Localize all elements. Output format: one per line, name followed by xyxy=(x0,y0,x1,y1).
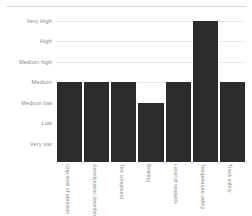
x-axis-tick: Tire compound xyxy=(110,163,137,215)
x-axis-tick-label: Track safety xyxy=(227,164,233,193)
bar[interactable] xyxy=(192,21,219,162)
x-axis-tick: Braking xyxy=(137,163,164,215)
y-axis-tick-label: Very low xyxy=(0,141,52,147)
y-axis-tick-label: Medium low xyxy=(0,100,52,106)
top-divider xyxy=(6,6,246,7)
x-axis-tick-labels: Grip level of abrasionAerodynamic downfo… xyxy=(56,163,246,216)
x-axis-tick-label: Aerodynamic downforce xyxy=(91,164,97,216)
bar[interactable] xyxy=(137,103,164,162)
y-axis-tick-label: Very High xyxy=(0,18,52,24)
x-axis-tick: Temperature safety xyxy=(192,163,219,215)
y-axis-tick-label: Medium xyxy=(0,79,52,85)
y-axis-tick-label: Low xyxy=(0,120,52,126)
x-axis-tick-label: Grip level of abrasion xyxy=(64,164,70,214)
x-axis-tick: Level of sealants xyxy=(165,163,192,215)
bar[interactable] xyxy=(165,82,192,162)
x-axis-tick: Aerodynamic downforce xyxy=(83,163,110,215)
y-axis-tick-label: Medium high xyxy=(0,59,52,65)
bar[interactable] xyxy=(83,82,110,162)
y-axis-tick-label: High xyxy=(0,38,52,44)
bar[interactable] xyxy=(219,82,246,162)
bar-chart: Very HighHighMedium highMediumMedium low… xyxy=(0,0,252,216)
bar[interactable] xyxy=(110,82,137,162)
x-axis-tick-label: Tire compound xyxy=(118,164,124,199)
x-axis-tick: Grip level of abrasion xyxy=(56,163,83,215)
x-axis-tick-label: Braking xyxy=(145,164,151,182)
x-axis-tick-label: Level of sealants xyxy=(173,164,179,204)
y-axis-tick-labels: Very HighHighMedium highMediumMedium low… xyxy=(0,19,54,162)
x-axis-tick-label: Temperature safety xyxy=(200,164,206,209)
x-axis-tick: Track safety xyxy=(219,163,246,215)
bar[interactable] xyxy=(56,82,83,162)
bar-series xyxy=(56,19,246,162)
plot-area xyxy=(56,19,246,162)
